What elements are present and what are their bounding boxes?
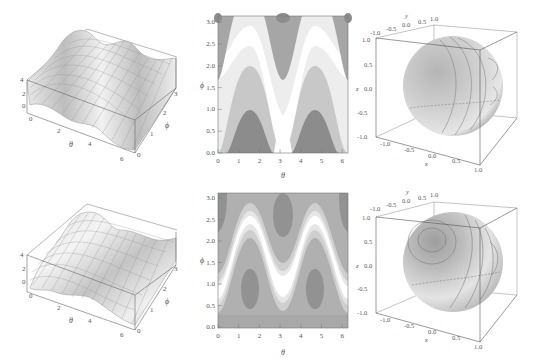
y-tick: 1.0 — [206, 105, 215, 113]
z-tick: 0.5 — [364, 238, 372, 245]
z-tick: -0.5 — [357, 109, 367, 116]
y-tick: 3 — [174, 265, 178, 273]
y-tick: 0.0 — [402, 21, 410, 28]
x-tick: 2 — [258, 332, 262, 340]
y-tick: 0.0 — [402, 197, 410, 204]
x-tick: 5 — [320, 157, 324, 165]
z-axis-label: z — [355, 262, 359, 269]
y-tick: 2.5 — [206, 40, 215, 48]
x-tick: 6 — [340, 332, 344, 340]
x-tick: 1.0 — [474, 343, 482, 350]
contour-plot-top-svg: 0 1 2 3 4 5 6 0.0 0.5 1.0 1.5 2.0 2.5 3.… — [195, 0, 355, 180]
z-tick: 1.0 — [362, 36, 370, 43]
x-tick: 0.0 — [428, 152, 436, 159]
z-tick: 4 — [20, 251, 24, 259]
z-tick: -1.0 — [357, 309, 367, 316]
x-tick: 1 — [237, 157, 241, 165]
contour-plot-bottom: 0 1 2 3 4 5 6 0.0 0.5 1.0 1.5 2.0 2.5 3.… — [195, 180, 355, 360]
y-tick: -0.5 — [386, 25, 396, 32]
surface-plot-bottom: 4 2 0 0 2 4 6 θ 0 1 2 3 ϕ — [0, 180, 180, 360]
x-tick: 2 — [258, 157, 262, 165]
y-tick: 1.5 — [206, 84, 215, 92]
x-tick: 4 — [299, 332, 303, 340]
sphere-plot-top-svg: -1.0 -0.5 0.0 0.5 1.0 y 1.0 0.5 0.0 -0.5… — [350, 0, 540, 180]
x-tick: 0.5 — [452, 157, 460, 164]
x-tick: 3 — [278, 332, 282, 340]
contour-plot-top: 0 1 2 3 4 5 6 0.0 0.5 1.0 1.5 2.0 2.5 3.… — [195, 0, 355, 180]
z-tick: 2 — [22, 90, 26, 98]
y-tick: 1.5 — [206, 259, 215, 267]
z-axis-label: z — [355, 85, 359, 92]
x-tick: -1.0 — [380, 140, 390, 147]
y-tick: -1.0 — [370, 205, 380, 212]
y-tick: -1.0 — [370, 29, 380, 36]
x-tick: 3 — [278, 157, 282, 165]
x-axis-label: θ — [281, 171, 285, 180]
z-tick: 0 — [22, 278, 26, 286]
x-tick: 2 — [57, 127, 61, 135]
sphere-plot-bottom-svg: -1.0 -0.5 0.0 0.5 1.0 y 1.0 0.5 0.0 -0.5… — [350, 180, 540, 360]
y-tick: 0 — [137, 151, 141, 159]
x-tick: -0.5 — [404, 146, 414, 153]
y-tick: 2 — [163, 109, 167, 117]
x-tick: 6 — [120, 331, 124, 339]
x-tick: 0 — [216, 157, 220, 165]
y-tick: 0.5 — [206, 127, 215, 135]
x-tick: 1.0 — [474, 166, 482, 173]
y-tick: 1.0 — [430, 15, 438, 22]
y-tick: 0.5 — [206, 302, 215, 310]
x-tick: 5 — [320, 332, 324, 340]
y-tick: 0.5 — [418, 194, 426, 201]
x-axis-label: x — [424, 336, 428, 343]
x-tick: 2 — [57, 304, 61, 312]
surface-plot-top-svg: 4 2 0 0 2 4 6 θ 0 1 2 3 ϕ — [0, 0, 180, 180]
x-tick: 6 — [340, 157, 344, 165]
surface-plot-top: 4 2 0 0 2 4 6 θ 0 1 2 3 ϕ — [0, 0, 180, 180]
x-tick: 4 — [299, 157, 303, 165]
y-tick: -0.5 — [386, 201, 396, 208]
y-tick: 2 — [163, 285, 167, 293]
y-tick: 3.0 — [206, 194, 215, 202]
z-tick: 0 — [22, 102, 26, 110]
x-axis-label: θ — [281, 348, 285, 357]
z-tick: 1.0 — [362, 214, 370, 221]
x-tick: 1 — [237, 332, 241, 340]
x-tick: 4 — [88, 140, 92, 148]
z-tick: 0.5 — [364, 61, 372, 68]
x-tick: -0.5 — [404, 322, 414, 329]
y-axis-label: ϕ — [165, 297, 169, 306]
y-tick: 1.0 — [206, 280, 215, 288]
x-tick: 0.5 — [452, 334, 460, 341]
z-tick: -1.0 — [357, 133, 367, 140]
y-tick: 3.0 — [206, 18, 215, 26]
y-tick: 1 — [150, 130, 154, 138]
x-tick: 6 — [120, 155, 124, 163]
z-tick: 0.0 — [364, 262, 372, 269]
y-tick: 0 — [137, 327, 141, 335]
y-tick: 2.5 — [206, 216, 215, 224]
x-axis-label: θ — [69, 140, 73, 149]
y-axis-label: ϕ — [165, 121, 169, 130]
y-tick: 2.0 — [206, 62, 215, 70]
y-tick: 3 — [174, 90, 178, 98]
x-tick: -1.0 — [380, 316, 390, 323]
sphere-plot-top: -1.0 -0.5 0.0 0.5 1.0 y 1.0 0.5 0.0 -0.5… — [350, 0, 540, 180]
y-axis-label: y — [404, 12, 408, 19]
y-tick: 2.0 — [206, 237, 215, 245]
y-axis-label: y — [405, 188, 409, 195]
contour-plot-bottom-svg: 0 1 2 3 4 5 6 0.0 0.5 1.0 1.5 2.0 2.5 3.… — [195, 180, 355, 360]
x-axis-label: x — [424, 160, 428, 167]
z-tick: 0.0 — [364, 85, 372, 92]
surface-plot-bottom-svg: 4 2 0 0 2 4 6 θ 0 1 2 3 ϕ — [0, 180, 180, 360]
y-tick: 0.0 — [206, 323, 215, 331]
x-tick: 0 — [216, 332, 220, 340]
x-tick: 0 — [29, 292, 33, 300]
y-tick: 1.0 — [430, 191, 438, 198]
x-tick: 4 — [88, 317, 92, 325]
y-axis-label: ϕ — [200, 81, 204, 90]
y-tick: 1 — [150, 306, 154, 314]
x-tick: 0.0 — [428, 328, 436, 335]
z-tick: -0.5 — [357, 285, 367, 292]
x-axis-label: θ — [69, 316, 73, 325]
z-tick: 2 — [22, 265, 26, 273]
